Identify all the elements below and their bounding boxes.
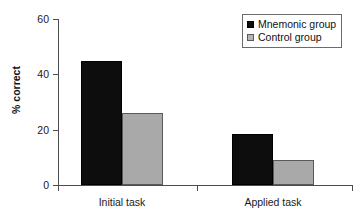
y-axis-tick-40 (53, 74, 58, 75)
x-axis-category-initial-task: Initial task (62, 196, 182, 208)
bar-chart: 60 40 20 0 % correct Initial task Applie… (0, 0, 361, 224)
y-axis-label-0: 0 (9, 180, 49, 191)
y-axis-title: % correct (10, 50, 22, 130)
legend-entry-control-group: Control group (247, 31, 336, 44)
bar-mnemonic-initial-task (81, 61, 122, 186)
legend-entry-mnemonic-group: Mnemonic group (247, 18, 336, 31)
legend-label-mnemonic-group: Mnemonic group (258, 19, 336, 30)
y-axis-tick-60 (53, 19, 58, 20)
gray-square-swatch-icon (247, 34, 254, 41)
x-axis-tick-middle (197, 186, 198, 191)
y-axis-label-60: 60 (9, 14, 49, 25)
bar-mnemonic-applied-task (232, 134, 273, 185)
x-axis-category-applied-task: Applied task (213, 196, 333, 208)
x-axis-line (58, 185, 353, 186)
x-axis-tick-end (352, 186, 353, 191)
y-axis-tick-20 (53, 130, 58, 131)
bar-control-applied-task (273, 160, 314, 185)
x-axis-tick-start (58, 186, 59, 191)
legend-label-control-group: Control group (258, 32, 322, 43)
bar-control-initial-task (122, 113, 163, 185)
black-square-swatch-icon (247, 21, 254, 28)
chart-legend: Mnemonic group Control group (242, 14, 342, 48)
